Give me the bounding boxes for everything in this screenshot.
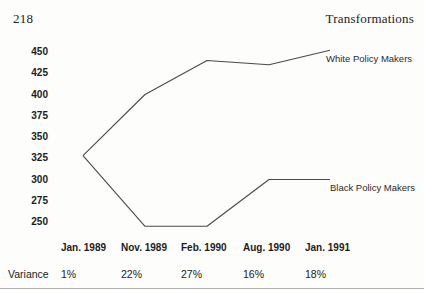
series-label-black-policy-makers: Black Policy Makers: [330, 182, 415, 193]
x-label-3: Aug. 1990: [243, 242, 290, 253]
black-policy-makers-line: [83, 156, 330, 227]
variance-value-3: 16%: [243, 268, 264, 280]
variance-value-4: 18%: [305, 268, 326, 280]
y-tick-325: 325: [16, 153, 48, 163]
y-tick-400: 400: [16, 90, 48, 100]
x-label-4: Jan. 1991: [305, 242, 350, 253]
x-label-0: Jan. 1989: [61, 242, 106, 253]
y-tick-375: 375: [16, 111, 48, 121]
x-label-2: Feb. 1990: [181, 242, 227, 253]
y-tick-250: 250: [16, 217, 48, 227]
y-tick-350: 350: [16, 132, 48, 142]
variance-row-label: Variance: [8, 268, 49, 280]
white-policy-makers-line: [83, 50, 330, 155]
variance-value-0: 1%: [61, 268, 76, 280]
y-tick-275: 275: [16, 196, 48, 206]
x-label-1: Nov. 1989: [121, 242, 167, 253]
variance-value-2: 27%: [181, 268, 202, 280]
y-tick-425: 425: [16, 68, 48, 78]
y-tick-450: 450: [16, 47, 48, 57]
series-label-white-policy-makers: White Policy Makers: [326, 53, 412, 64]
variance-value-1: 22%: [121, 268, 142, 280]
y-tick-300: 300: [16, 175, 48, 185]
bottom-horizontal-rule: [0, 288, 424, 289]
book-page: 218 Transformations 45042540037535032530…: [0, 0, 424, 293]
